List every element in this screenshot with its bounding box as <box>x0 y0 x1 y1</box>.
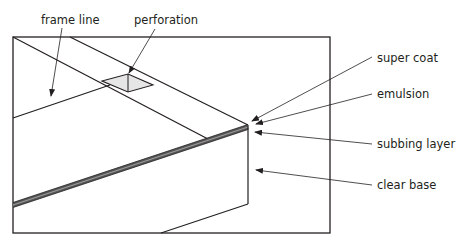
emulsion-layer-band <box>13 125 248 208</box>
arrow-emulsion <box>256 94 372 124</box>
arrow-perforation <box>129 29 155 73</box>
label-super-coat: super coat <box>377 51 438 65</box>
film-cross-section-diagram: frame line perforation super coat emulsi… <box>0 0 456 246</box>
base-bottom-edge <box>161 204 248 233</box>
arrow-clear-base <box>256 170 372 185</box>
arrow-super-coat <box>252 57 372 121</box>
label-clear-base: clear base <box>377 178 436 192</box>
frame-line <box>13 85 110 118</box>
label-emulsion: emulsion <box>377 87 429 101</box>
arrow-subbing-layer <box>255 132 372 144</box>
label-perforation: perforation <box>134 13 198 27</box>
label-frame-line: frame line <box>41 13 100 27</box>
film-edge-lower <box>13 37 208 139</box>
label-subbing-layer: subbing layer <box>377 137 455 151</box>
